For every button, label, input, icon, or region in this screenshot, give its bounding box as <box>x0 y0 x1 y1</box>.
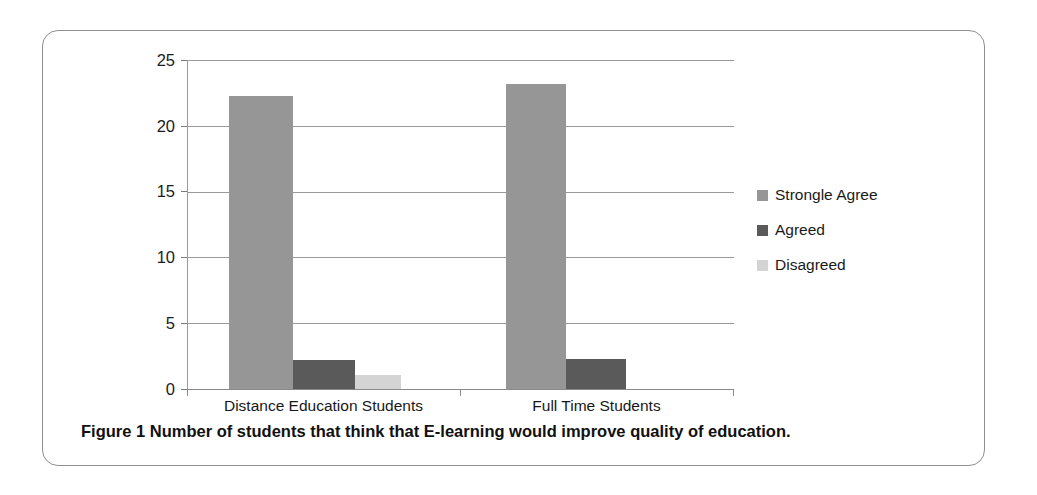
y-tick-label-10: 10 <box>127 249 175 266</box>
bars-layer <box>187 60 734 389</box>
figure-caption-text: Number of students that think that E-lea… <box>150 422 791 440</box>
legend-swatch-strongle-agree <box>757 190 768 201</box>
bar-chart: 25 20 15 10 5 0 <box>43 31 986 467</box>
legend-item-disagreed[interactable]: Disagreed <box>757 256 967 274</box>
x-tick-0 <box>187 389 188 396</box>
y-tick-label-5: 5 <box>127 315 175 332</box>
chart-legend: Strongle Agree Agreed Disagreed <box>757 186 967 291</box>
bar-distance-strongle-agree[interactable] <box>229 96 293 390</box>
legend-swatch-agreed <box>757 225 768 236</box>
bar-distance-agreed[interactable] <box>293 360 355 389</box>
y-tick-label-20: 20 <box>127 118 175 135</box>
bar-distance-disagreed[interactable] <box>355 375 401 390</box>
figure-frame: 25 20 15 10 5 0 <box>42 30 985 466</box>
legend-label-disagreed: Disagreed <box>775 257 846 273</box>
x-label-full-time-students: Full Time Students <box>460 398 733 414</box>
legend-item-strongle-agree[interactable]: Strongle Agree <box>757 186 967 204</box>
y-axis-labels: 25 20 15 10 5 0 <box>83 31 175 467</box>
y-tick-label-25: 25 <box>127 52 175 69</box>
x-label-distance-education-students: Distance Education Students <box>187 398 460 414</box>
x-tick-2 <box>733 389 734 396</box>
y-tick-label-15: 15 <box>127 183 175 200</box>
figure-caption-label: Figure 1 <box>81 422 145 440</box>
legend-item-agreed[interactable]: Agreed <box>757 221 967 239</box>
x-tick-1 <box>460 389 461 396</box>
bar-fulltime-agreed[interactable] <box>566 359 626 389</box>
bar-fulltime-strongle-agree[interactable] <box>506 84 566 389</box>
y-tick-label-0: 0 <box>127 381 175 398</box>
legend-label-strongle-agree: Strongle Agree <box>775 187 878 203</box>
legend-label-agreed: Agreed <box>775 222 825 238</box>
legend-swatch-disagreed <box>757 260 768 271</box>
figure-caption: Figure 1 Number of students that think t… <box>81 421 961 442</box>
